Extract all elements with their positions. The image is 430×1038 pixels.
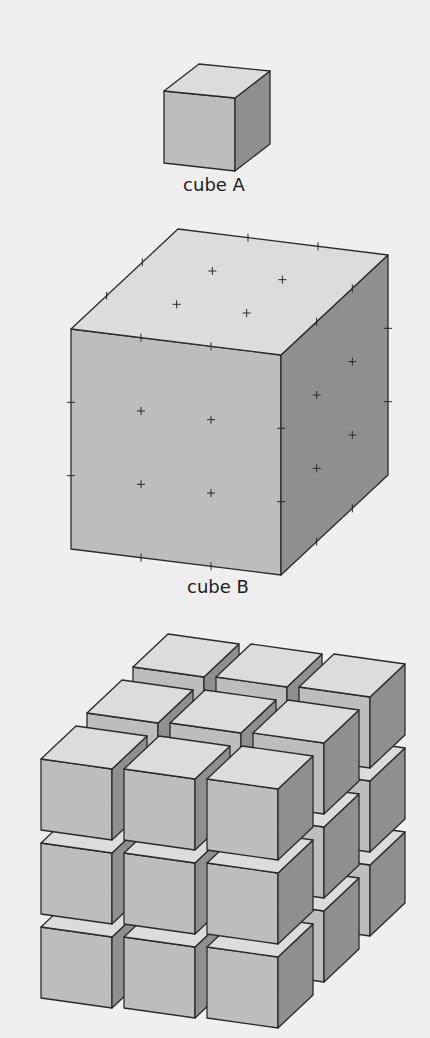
cube-front-face <box>164 91 235 171</box>
cube-front-face <box>41 843 112 924</box>
cube-front-face <box>207 779 278 860</box>
cube-front-face <box>207 863 278 944</box>
cube-diagram <box>0 0 430 1038</box>
cube-front-face <box>41 759 112 840</box>
diagram-stage: cube A cube B <box>0 0 430 1038</box>
cube-a-label: cube A <box>183 174 245 195</box>
stacked-cubes-drawing <box>41 634 405 1028</box>
cube-front-face <box>124 853 195 934</box>
cube-front-face <box>124 769 195 850</box>
cube-a-drawing <box>164 64 270 171</box>
cube-b-label: cube B <box>187 576 249 597</box>
cube-front-face <box>71 329 281 575</box>
cube-front-face <box>124 937 195 1018</box>
cube-front-face <box>207 947 278 1028</box>
cube-b-drawing <box>67 229 392 575</box>
cube-front-face <box>41 927 112 1008</box>
